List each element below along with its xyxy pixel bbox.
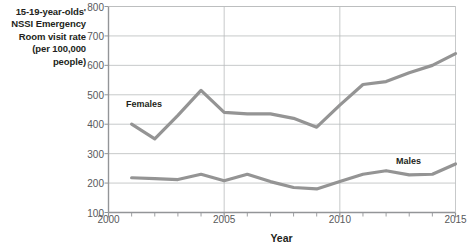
series-label-males: Males <box>396 156 421 166</box>
x-axis-tick-labels: 2000200520102015 <box>0 0 467 251</box>
series-label-females: Females <box>126 99 162 109</box>
x-tick-label-2005: 2005 <box>213 214 235 225</box>
x-axis-title: Year <box>108 232 455 244</box>
chart-container: 15-19-year-olds' NSSI Emergency Room vis… <box>0 0 467 251</box>
x-tick-label-2015: 2015 <box>444 214 466 225</box>
x-tick-label-2000: 2000 <box>97 214 119 225</box>
x-tick-label-2010: 2010 <box>329 214 351 225</box>
